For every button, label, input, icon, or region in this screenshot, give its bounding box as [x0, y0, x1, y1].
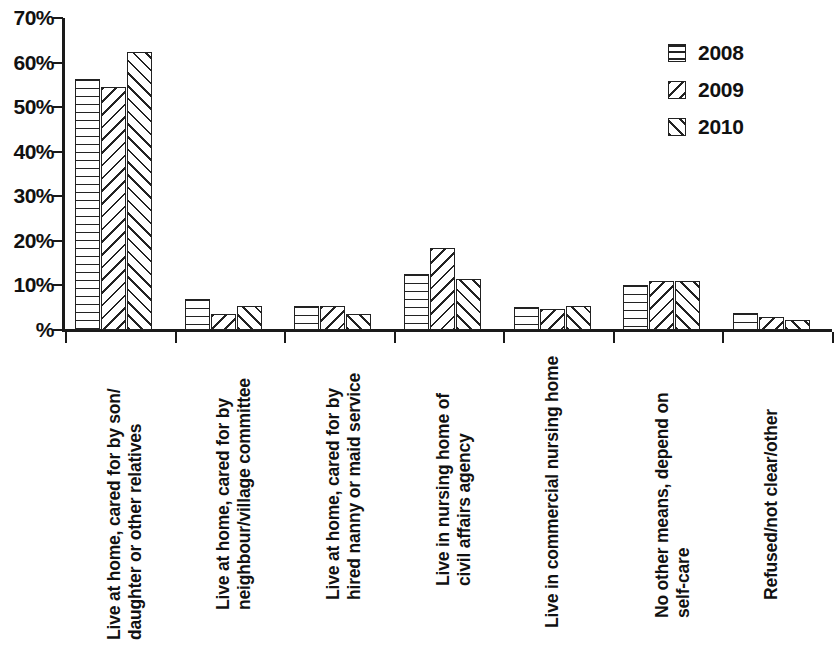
category-label-line: Live at home, cared for by [323, 388, 343, 600]
bar-2009-2 [211, 314, 236, 330]
bar-2008-7 [733, 313, 758, 330]
y-axis-tick-label: 60% [13, 51, 54, 75]
bar-2009-6 [649, 281, 674, 330]
y-axis: 70%60%50%40%30%20%10%% [0, 0, 58, 340]
legend-swatch-icon [668, 44, 686, 62]
bar-2010-1 [127, 52, 152, 330]
y-axis-tick-label: 40% [13, 140, 54, 164]
category-label-line: Live in nursing home of [433, 393, 453, 586]
x-axis-tick-mark [394, 332, 396, 343]
y-axis-tick-mark [53, 151, 63, 153]
category-label-line: civil affairs agency [454, 393, 475, 586]
bar-2008-2 [185, 299, 210, 330]
bar-group [294, 18, 371, 330]
chart-legend: 200820092010 [668, 34, 818, 145]
x-axis-category-label-6: No other means, depend onself-care [652, 393, 694, 618]
bar-2010-3 [346, 314, 371, 330]
bar-group [404, 18, 481, 330]
bar-2008-1 [75, 79, 100, 330]
category-label-line: daughter or other relatives [125, 388, 146, 640]
y-axis-tick-mark [53, 62, 63, 64]
x-axis-tick-mark [613, 332, 615, 343]
bar-2010-7 [785, 320, 810, 330]
y-axis-tick-label: 30% [13, 184, 54, 208]
bar-group [185, 18, 262, 330]
x-axis-category-label-3: Live at home, cared for byhired nanny or… [323, 373, 365, 600]
legend-item-2010: 2010 [668, 108, 818, 145]
x-axis-category-label-5: Live in commercial nursing home [542, 356, 563, 628]
y-axis-tick-mark [53, 284, 63, 286]
bar-2010-2 [237, 306, 262, 331]
bar-2009-7 [759, 317, 784, 330]
category-label-line: self-care [673, 393, 694, 618]
x-axis-category-label-1: Live at home, cared for by son/daughter … [104, 388, 146, 640]
category-label-line: hired nanny or maid service [344, 373, 365, 600]
bar-2008-4 [404, 274, 429, 330]
legend-label: 2010 [698, 115, 744, 139]
y-axis-tick-label: 20% [13, 229, 54, 253]
legend-swatch-icon [668, 118, 686, 136]
category-label-line: No other means, depend on [652, 393, 672, 618]
bar-2010-6 [675, 281, 700, 330]
category-label-line: Live in commercial nursing home [542, 356, 562, 628]
bar-2008-6 [623, 285, 648, 330]
x-axis-tick-mark [503, 332, 505, 343]
bar-2010-4 [456, 279, 481, 330]
legend-label: 2008 [698, 41, 744, 65]
bar-2009-5 [540, 309, 565, 330]
bar-group [514, 18, 591, 330]
y-axis-tick-mark [53, 17, 63, 19]
category-label-line: Live at home, cared for by [213, 398, 233, 610]
legend-label: 2009 [698, 78, 744, 102]
bar-2009-3 [320, 306, 345, 331]
x-axis-tick-mark [175, 332, 177, 343]
category-label-line: Live at home, cared for by son/ [104, 388, 124, 640]
y-axis-tick-label: 70% [13, 6, 54, 30]
bar-2008-3 [294, 306, 319, 330]
category-label-line: neighbour/village committee [234, 378, 255, 610]
y-axis-tick-label: 10% [13, 273, 54, 297]
legend-swatch-icon [668, 81, 686, 99]
bar-2009-4 [430, 248, 455, 330]
bar-2010-5 [566, 306, 591, 330]
legend-item-2008: 2008 [668, 34, 818, 71]
x-axis-tick-mark [65, 332, 67, 343]
y-axis-tick-mark [53, 240, 63, 242]
x-axis-category-label-2: Live at home, cared for byneighbour/vill… [213, 378, 255, 610]
x-axis-category-label-7: Refused/not clear/other [761, 409, 782, 600]
y-axis-tick-label: 50% [13, 95, 54, 119]
bar-group [75, 18, 152, 330]
y-axis-tick-label: % [36, 318, 54, 342]
y-axis-tick-mark [53, 329, 63, 331]
x-axis-tick-mark [722, 332, 724, 343]
y-axis-tick-mark [53, 106, 63, 108]
x-axis-tick-mark [284, 332, 286, 343]
legend-item-2009: 2009 [668, 71, 818, 108]
x-axis-category-label-4: Live in nursing home ofcivil affairs age… [433, 393, 475, 586]
bar-2009-1 [101, 87, 126, 330]
x-axis-category-labels: Live at home, cared for by son/daughter … [65, 338, 832, 655]
y-axis-tick-mark [53, 195, 63, 197]
bar-2008-5 [514, 307, 539, 330]
category-label-line: Refused/not clear/other [761, 409, 781, 600]
